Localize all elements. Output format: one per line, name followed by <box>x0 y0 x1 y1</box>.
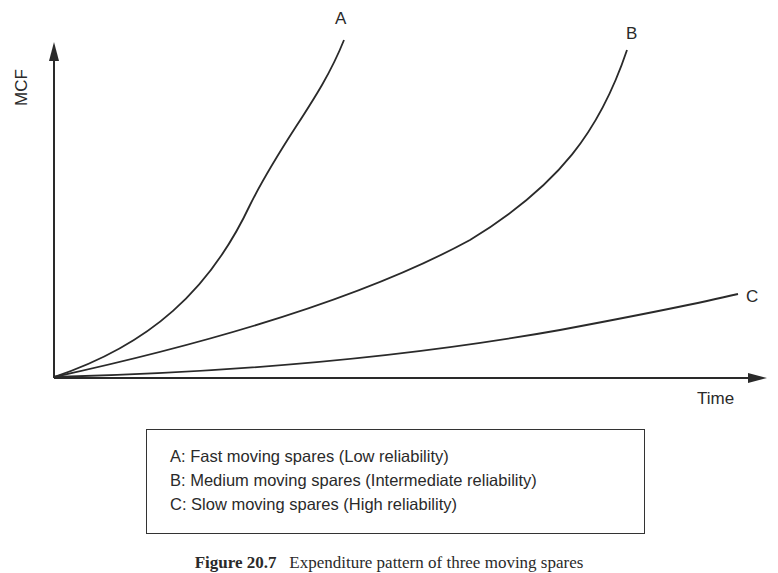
y-axis-arrow-icon <box>49 42 59 61</box>
curve-a-label: A <box>335 9 346 29</box>
legend-item-a: A: Fast moving spares (Low reliability) <box>170 444 644 468</box>
curve-c <box>54 294 738 377</box>
curve-c-label: C <box>746 287 758 307</box>
curve-b <box>54 50 627 377</box>
y-axis-label: MCF <box>12 69 32 106</box>
figure-caption-label: Figure 20.7 <box>195 553 277 572</box>
x-axis-arrow-icon <box>748 373 767 383</box>
x-axis-label: Time <box>697 389 734 409</box>
curve-a <box>54 40 344 377</box>
legend-item-b: B: Medium moving spares (Intermediate re… <box>170 468 644 492</box>
curve-b-label: B <box>626 24 637 44</box>
figure-caption-text: Expenditure pattern of three moving spar… <box>289 553 583 572</box>
legend-box: A: Fast moving spares (Low reliability) … <box>146 429 645 534</box>
figure-caption: Figure 20.7 Expenditure pattern of three… <box>0 553 778 573</box>
legend-item-c: C: Slow moving spares (High reliability) <box>170 492 644 516</box>
